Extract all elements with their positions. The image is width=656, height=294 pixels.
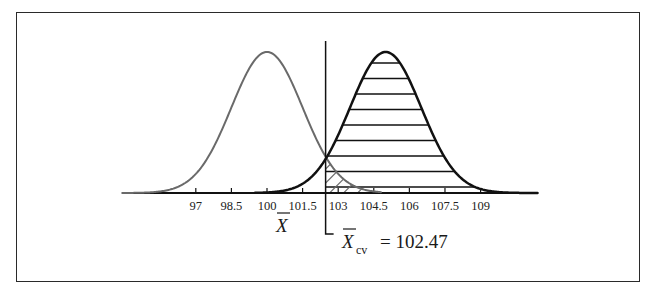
x-tick-label: 104.5 [360, 199, 388, 213]
cv-value: = 102.47 [380, 231, 448, 252]
x-tick-label: 101.5 [289, 199, 317, 213]
x-tick-label: 100 [258, 199, 277, 213]
xbar-label: X [275, 215, 289, 236]
x-axis-ticks: 9798.5100101.5103104.5106107.5109 [190, 188, 490, 213]
x-tick-label: 107.5 [431, 199, 459, 213]
x-tick-label: 103 [329, 199, 348, 213]
x-tick-label: 97 [190, 199, 203, 213]
x-tick-label: 109 [471, 199, 490, 213]
power-region-hatching [326, 63, 538, 187]
cv-subscript: cv [356, 243, 367, 257]
x-axis-label: X [275, 213, 290, 236]
critical-value-label: X cv = 102.47 [341, 229, 448, 257]
alpha-region-hatching [246, 133, 572, 193]
cv-xbar-symbol: X [341, 231, 355, 252]
x-tick-label: 98.5 [220, 199, 242, 213]
x-tick-label: 106 [400, 199, 419, 213]
power-diagram: 9798.5100101.5103104.5106107.5109 X X cv… [0, 0, 656, 294]
